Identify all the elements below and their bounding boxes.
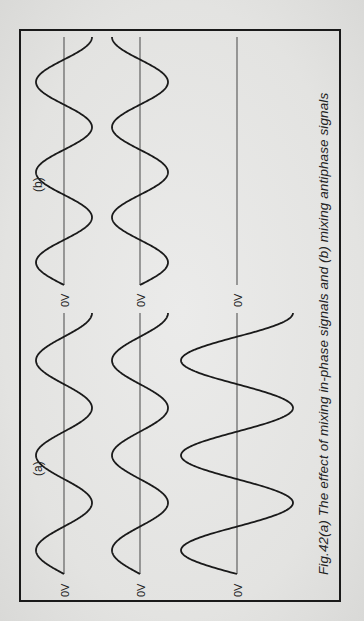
- zero-volt-label-b-sum: 0V: [232, 294, 244, 307]
- zero-volt-label-a-sum: 0V: [232, 584, 244, 597]
- zero-volt-label-b1: 0V: [59, 294, 71, 307]
- figure-caption: Fig.42(a) The effect of mixing in-phase …: [316, 93, 331, 575]
- zero-volt-label-a2: 0V: [135, 584, 147, 597]
- panel-label-b: (b): [31, 177, 45, 192]
- zero-volt-label-a1: 0V: [59, 584, 71, 597]
- zero-volt-label-b2: 0V: [135, 294, 147, 307]
- book-page: (a) (b) 0V 0V 0V 0V 0V 0V Fig.42(a) The …: [0, 0, 364, 621]
- panel-label-a: (a): [31, 461, 45, 476]
- waveform-diagram: [0, 0, 364, 621]
